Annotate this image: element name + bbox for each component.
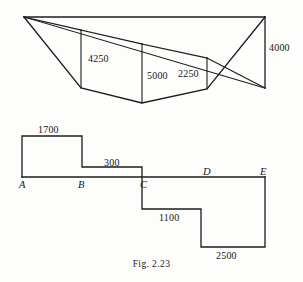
dimension-label-300: 300 [104,157,120,168]
dimension-label-2250: 2250 [178,68,199,79]
dimension-label-5000: 5000 [147,70,168,81]
point-label-b: B [78,179,84,190]
dimension-label-1700: 1700 [38,124,59,135]
point-label-c: C [140,179,147,190]
point-label-e: E [260,166,266,177]
profile-step-path [22,136,265,247]
dimension-label-4000: 4000 [269,42,290,53]
section-outline [24,17,265,103]
sight-line [24,17,265,88]
dimension-label-4250: 4250 [88,53,109,64]
point-label-d: D [203,166,211,177]
figure-page: 4250 5000 2250 4000 1700 300 1100 2500 A… [0,0,303,282]
point-label-a: A [19,179,25,190]
dimension-label-1100: 1100 [159,212,179,223]
figure-linework [0,0,303,282]
figure-caption: Fig. 2.23 [0,259,303,269]
chord-line-right [142,44,207,58]
